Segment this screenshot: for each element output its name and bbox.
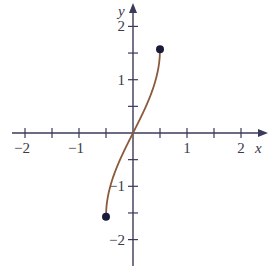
function-graph: −2−11221−1−2 x y	[0, 0, 268, 272]
y-tick-label: 2	[118, 18, 126, 34]
x-tick-label: 2	[237, 140, 245, 156]
x-tick-label: 1	[183, 140, 191, 156]
axes	[12, 3, 268, 266]
x-tick-label: −2	[14, 140, 30, 156]
y-tick-label: −2	[109, 232, 125, 248]
endpoint-dot	[102, 213, 110, 221]
x-tick-label: −1	[68, 140, 84, 156]
x-axis-label: x	[254, 140, 262, 156]
x-axis-arrow-icon	[258, 129, 268, 137]
endpoint-dot	[156, 45, 164, 53]
y-axis-arrow-icon	[129, 3, 137, 13]
y-axis-label: y	[116, 3, 125, 19]
y-tick-label: 1	[118, 72, 126, 88]
